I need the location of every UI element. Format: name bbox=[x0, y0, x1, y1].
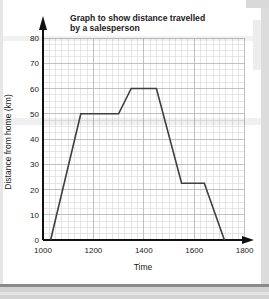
scanned-textbook-page: Graph to show distance travelled by a sa… bbox=[0, 0, 269, 299]
x-axis-arrow-icon bbox=[242, 236, 254, 244]
chart-title-line1: Graph to show distance travelled bbox=[70, 13, 205, 23]
x-tick-label: 1600 bbox=[185, 246, 203, 255]
y-tick-label: 0 bbox=[35, 236, 40, 245]
y-tick-label: 40 bbox=[30, 135, 39, 144]
distance-time-chart: Graph to show distance travelled by a sa… bbox=[0, 0, 269, 299]
y-axis-arrow-icon bbox=[39, 16, 47, 30]
x-tick-label: 1400 bbox=[135, 246, 153, 255]
x-tick-label: 1000 bbox=[34, 246, 52, 255]
y-tick-label: 10 bbox=[30, 211, 39, 220]
y-tick-label: 60 bbox=[30, 85, 39, 94]
x-tick-label: 1200 bbox=[85, 246, 103, 255]
x-tick-label: 1800 bbox=[236, 246, 254, 255]
chart-title-line2: by a salesperson bbox=[70, 23, 140, 33]
y-tick-label: 70 bbox=[30, 59, 39, 68]
x-axis-label: Time bbox=[134, 262, 153, 272]
y-tick-label: 20 bbox=[30, 186, 39, 195]
y-tick-label: 50 bbox=[30, 110, 39, 119]
y-tick-label: 80 bbox=[30, 34, 39, 43]
y-tick-label: 30 bbox=[30, 160, 39, 169]
y-axis-label: Distance from home (km) bbox=[3, 94, 13, 190]
